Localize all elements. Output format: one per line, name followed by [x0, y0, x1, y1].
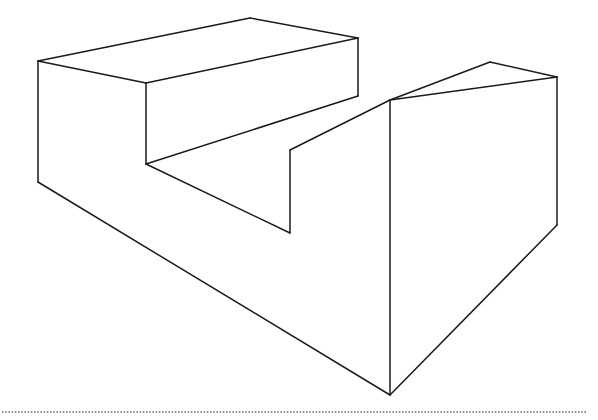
drawing-canvas	[0, 0, 598, 420]
step-block-figure	[0, 0, 598, 420]
